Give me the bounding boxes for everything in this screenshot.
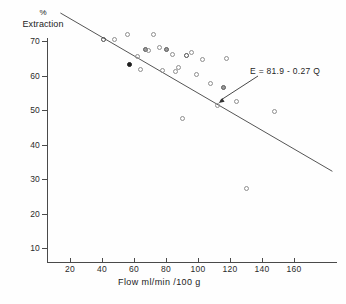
regression-equation-label: E = 81.9 - 0.27 Q [250,66,320,76]
scatter-chart-figure: % Extraction 10203040506070 204060801001… [0,0,346,304]
annotation-arrow-icon [0,0,346,304]
plot-area: E = 81.9 - 0.27 Q [0,0,346,304]
x-axis-title: Flow ml/min /100 g [118,277,201,287]
